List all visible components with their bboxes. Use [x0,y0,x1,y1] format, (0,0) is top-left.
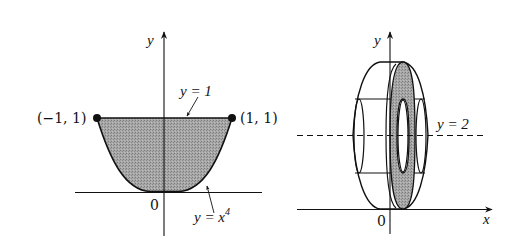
point-left-label: (−1, 1) [37,110,86,126]
leader-y1 [187,97,198,116]
point-right [228,114,236,122]
point-right-label: (1, 1) [240,110,278,126]
right-origin-label: 0 [377,213,386,229]
left-y-axis-label: y [145,32,154,48]
left-figure: y 0 y = 1 (−1, 1) (1, 1) y = x4 [37,32,278,236]
right-figure: y x 0 y = 2 [297,32,492,234]
diagram-canvas: y 0 y = 1 (−1, 1) (1, 1) y = x4 y x 0 [0,0,525,246]
point-left [93,114,101,122]
right-x-axis-label: x [482,211,490,227]
rotation-axis-label: y = 2 [435,116,469,132]
line-label: y = 1 [178,83,212,99]
right-y-axis-label: y [372,32,381,48]
curve-label: y = x4 [192,206,230,225]
left-origin-label: 0 [150,197,159,213]
